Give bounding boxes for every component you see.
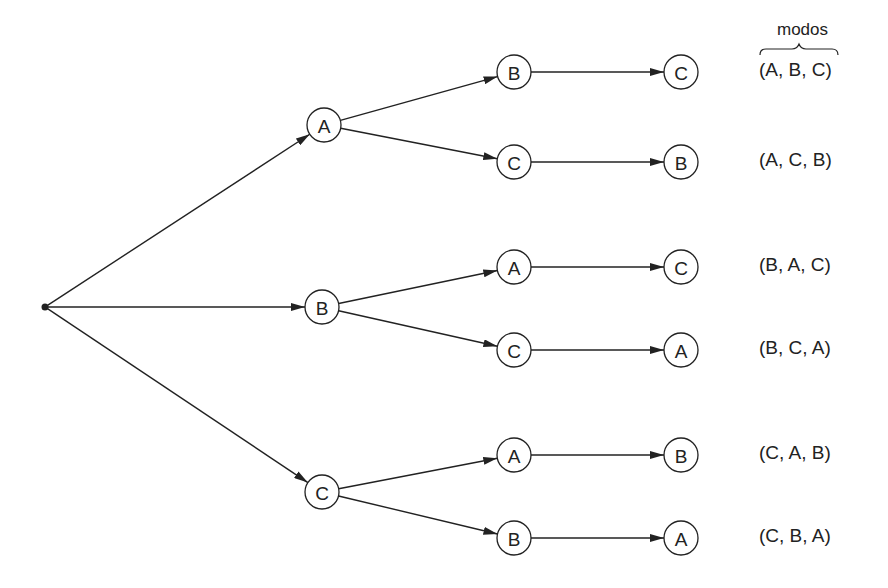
svg-text:A: A [675,529,688,550]
tree-node-b: B [305,290,339,324]
tree-edge [339,458,498,489]
tree-node-c: C [497,333,531,367]
svg-text:C: C [674,258,688,279]
tree-node-c: C [497,145,531,179]
tree-edge [339,311,498,347]
tree-edge [339,270,498,303]
svg-text:B: B [508,529,521,550]
outcome-label: (A, C, B) [759,149,832,171]
tree-node-b: B [664,145,698,179]
svg-text:A: A [318,116,331,137]
outcome-label: (C, B, A) [759,525,831,547]
svg-text:C: C [315,483,329,504]
tree-edge [340,77,497,121]
root-node [42,304,49,311]
tree-node-a: A [497,438,531,472]
tree-node-a: A [664,333,698,367]
tree-edge [47,309,307,483]
svg-text:A: A [508,446,521,467]
outcome-label: (B, A, C) [759,254,831,276]
tree-node-a: A [307,108,341,142]
tree-node-c: C [664,55,698,89]
outcome-label: (A, B, C) [759,59,832,81]
outcome-label: (B, C, A) [759,337,831,359]
tree-edge [341,128,498,159]
svg-text:C: C [507,341,521,362]
svg-text:B: B [508,63,521,84]
svg-text:B: B [675,153,688,174]
tree-node-b: B [497,55,531,89]
tree-node-c: C [664,250,698,284]
svg-text:A: A [675,341,688,362]
svg-text:C: C [507,153,521,174]
tree-node-a: A [497,250,531,284]
tree-node-b: B [497,521,531,555]
outcome-label: (C, A, B) [759,442,831,464]
tree-diagram: ABCBCACABCBCABA [0,0,888,588]
svg-text:B: B [316,298,329,319]
tree-node-a: A [664,521,698,555]
tree-edge [48,134,310,305]
tree-node-b: B [664,438,698,472]
svg-text:C: C [674,63,688,84]
brace-icon [760,44,838,55]
modos-header: modos [777,20,828,40]
svg-text:A: A [508,258,521,279]
svg-text:B: B [675,446,688,467]
tree-edge [339,496,498,534]
tree-node-c: C [305,475,339,509]
